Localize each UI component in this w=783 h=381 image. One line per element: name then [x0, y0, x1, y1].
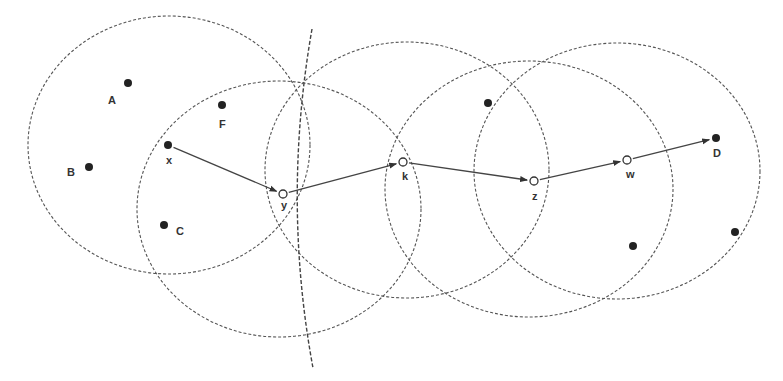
relay-node-z-icon — [530, 177, 538, 185]
arrow-w-to-D — [633, 140, 709, 159]
node-label-z: z — [532, 190, 538, 202]
arrow-z-to-w — [540, 162, 620, 180]
transmission-range-circles — [28, 16, 760, 337]
node-label-F: F — [219, 118, 226, 130]
node-B-icon — [85, 163, 93, 171]
relay-node-y-icon — [279, 190, 287, 198]
diagram-canvas: ABFxCykzwD — [0, 0, 783, 381]
node-n3-icon — [731, 228, 739, 236]
node-C-icon — [160, 221, 168, 229]
route-arrows — [174, 140, 710, 193]
boundary-curve-line — [297, 29, 313, 368]
range-z-circle — [385, 61, 673, 317]
relay-node-w-icon — [623, 156, 631, 164]
routing-diagram: ABFxCykzwD — [0, 0, 783, 381]
node-A-icon — [124, 79, 132, 87]
boundary-curve — [297, 29, 313, 368]
node-label-k: k — [402, 170, 409, 182]
node-x-icon — [164, 141, 172, 149]
node-labels: ABFxCykzwD — [67, 94, 721, 237]
node-D-icon — [712, 134, 720, 142]
node-label-w: w — [625, 168, 635, 180]
arrow-y-to-k — [289, 164, 396, 193]
node-label-D: D — [713, 147, 721, 159]
arrow-x-to-y — [174, 147, 277, 191]
node-label-B: B — [67, 166, 75, 178]
node-label-y: y — [281, 199, 288, 211]
node-label-C: C — [176, 225, 184, 237]
node-F-icon — [218, 101, 226, 109]
range-y-circle — [137, 81, 421, 337]
node-label-x: x — [166, 154, 173, 166]
arrow-k-to-z — [409, 163, 527, 180]
node-n2-icon — [629, 242, 637, 250]
range-w-circle — [474, 43, 760, 299]
node-label-A: A — [108, 94, 116, 106]
node-n1-icon — [484, 99, 492, 107]
relay-node-k-icon — [399, 158, 407, 166]
